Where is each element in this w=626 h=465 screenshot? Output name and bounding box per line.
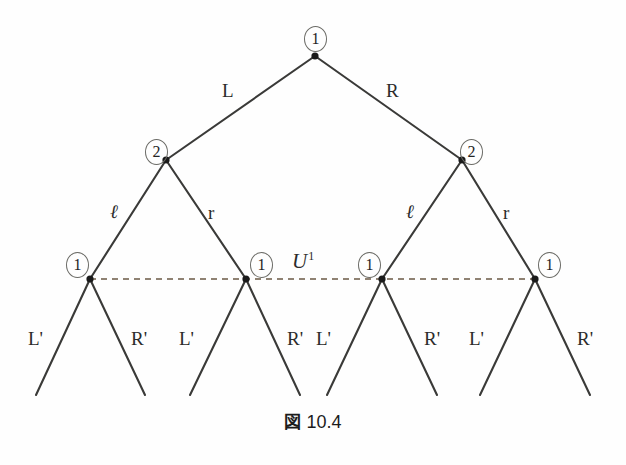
node-badge-label: 1 [312,31,320,47]
tree-diagram [0,0,626,465]
leaf-label: R' [424,328,440,350]
node-badge-label: 1 [74,257,82,273]
leaf-label: L' [469,328,484,350]
node-dot-rr [531,275,538,282]
node-dot-rl [378,275,385,282]
edge-label-L: L [222,80,234,102]
node-badge-label: 2 [153,144,161,160]
figure-caption: 図10.4 [0,408,626,433]
edge-label-R: R [386,80,399,102]
edge-root-to-right [315,56,462,160]
leaf-label: R' [287,328,303,350]
leaf-edge [480,279,535,395]
leaf-label: L' [316,328,331,350]
cut-line-label: U1 [292,249,314,274]
leaf-edge [190,279,246,395]
leaf-edges [36,279,590,395]
node-badge-rr: 1 [538,252,561,278]
node-badge-left: 2 [145,139,168,165]
node-dot-root [311,52,318,59]
edge-right-to-rl [382,160,462,279]
leaf-label: R' [131,328,147,350]
node-badge-root: 1 [304,26,327,52]
edge-label-ell-2: ℓ [406,200,414,223]
edge-right-to-rr [462,160,535,279]
node-badge-right: 2 [460,139,483,165]
figure-container: 1 2 2 1 1 1 1 L R ℓ r ℓ r U1 L' R' L' R'… [0,0,626,465]
cut-label-superscript: 1 [308,249,314,263]
node-dot-ll [86,275,93,282]
node-badge-ll: 1 [66,252,89,278]
node-badge-lr: 1 [250,252,273,278]
edge-label-ell-1: ℓ [110,200,118,223]
cut-label-base: U [292,249,307,273]
node-badge-label: 2 [468,144,476,160]
node-badge-rl: 1 [358,252,381,278]
edge-left-to-lr [166,160,246,279]
leaf-label: L' [28,328,43,350]
node-badge-label: 1 [366,257,374,273]
edge-left-to-ll [90,160,166,279]
node-badge-label: 1 [258,257,266,273]
figure-caption-mark: 図 [284,412,301,432]
tree-edges [90,56,535,279]
figure-caption-number: 10.4 [306,412,341,432]
leaf-edge [327,279,382,395]
leaf-label: L' [179,328,194,350]
node-dot-lr [242,275,249,282]
node-badge-label: 1 [546,257,554,273]
leaf-label: R' [577,328,593,350]
edge-label-r-2: r [503,202,509,224]
edge-root-to-left [166,56,315,160]
leaf-edge [36,279,90,395]
edge-label-r-1: r [208,202,214,224]
